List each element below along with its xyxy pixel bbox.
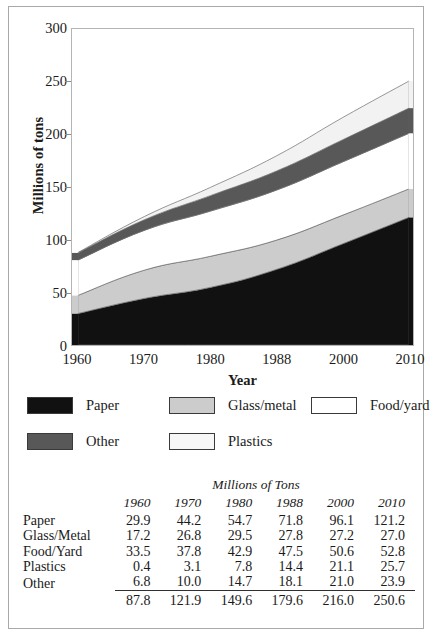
table-cell: 29.9 (115, 513, 160, 528)
table-row-label: Plastics (23, 559, 115, 574)
y-axis-title: Millions of tons (30, 86, 47, 246)
table-row-label: Glass/Metal (23, 528, 115, 543)
table-cell: 18.1 (262, 574, 313, 591)
table-cell: 47.5 (262, 544, 313, 559)
table-total-cell: 149.6 (211, 591, 262, 609)
table-row-label: Other (23, 574, 115, 591)
table-cell: 37.8 (160, 544, 211, 559)
area-edge-fill (409, 81, 413, 108)
table-row-label: Paper (23, 513, 115, 528)
table-total-cell: 179.6 (262, 591, 313, 609)
table-cell: 27.8 (262, 528, 313, 543)
area-edge-fill (409, 217, 413, 345)
table-row-label: Food/Yard (23, 544, 115, 559)
x-tick-label: 1988 (247, 351, 307, 368)
data-table: 196019701980198820002010 Paper29.944.254… (23, 495, 415, 608)
table-column-header: 2000 (313, 495, 364, 513)
y-tick-label: 100 (17, 233, 67, 248)
table-row: Paper29.944.254.771.896.1121.2 (23, 513, 415, 528)
table-cell: 121.2 (364, 513, 415, 528)
table-total-cell: 121.9 (160, 591, 211, 609)
table-column-header: 2010 (364, 495, 415, 513)
table-cell: 23.9 (364, 574, 415, 591)
table-total-cell: 216.0 (313, 591, 364, 609)
table-row: Food/Yard33.537.842.947.550.652.8 (23, 544, 415, 559)
x-tick-label: 1980 (180, 351, 240, 368)
area-edge-fill (409, 133, 413, 189)
table-header-row: 196019701980198820002010 (23, 495, 415, 513)
legend-label: Plastics (228, 433, 272, 450)
legend-swatch-icon (169, 433, 215, 450)
area-edge-fill (409, 108, 413, 133)
figure-frame: Millions of tons 300250200150100500 1960… (8, 6, 424, 629)
table-head: 196019701980198820002010 (23, 495, 415, 513)
area-series-svg (72, 29, 413, 345)
table-cell: 21.1 (313, 559, 364, 574)
x-tick-label: 1960 (47, 351, 107, 368)
table-cell: 17.2 (115, 528, 160, 543)
table-cell: 44.2 (160, 513, 211, 528)
area-edge-fill (72, 253, 78, 260)
table-cell: 26.8 (160, 528, 211, 543)
table-cell: 14.4 (262, 559, 313, 574)
table-cell: 21.0 (313, 574, 364, 591)
table-total-cell: 250.6 (364, 591, 415, 609)
legend-item-glass-metal[interactable]: Glass/metal (169, 397, 296, 414)
x-axis-title: Year (71, 372, 414, 389)
table-column-header: 1980 (211, 495, 262, 513)
y-tick-label: 300 (17, 21, 67, 36)
x-tick-label: 2010 (380, 351, 433, 368)
legend-item-food-yard[interactable]: Food/yard (311, 397, 430, 414)
area-edge-fill (409, 189, 413, 217)
table-total-label (23, 591, 115, 609)
y-tick-label: 200 (17, 127, 67, 142)
legend-swatch-icon (169, 397, 215, 414)
x-tick-label: 2000 (313, 351, 373, 368)
table-total-row: 87.8121.9149.6179.6216.0250.6 (23, 591, 415, 609)
table-cell: 29.5 (211, 528, 262, 543)
table-cell: 14.7 (211, 574, 262, 591)
table-cell: 3.1 (160, 559, 211, 574)
table-cell: 96.1 (313, 513, 364, 528)
table-row: Other6.810.014.718.121.023.9 (23, 574, 415, 591)
legend-item-paper[interactable]: Paper (27, 397, 119, 414)
table-cell: 10.0 (160, 574, 211, 591)
legend-item-other[interactable]: Other (27, 433, 119, 450)
table-corner-cell (23, 495, 115, 513)
legend-item-plastics[interactable]: Plastics (169, 433, 272, 450)
table-cell: 27.2 (313, 528, 364, 543)
legend-label: Glass/metal (228, 397, 296, 414)
chart-legend: PaperGlass/metalFood/yardOtherPlastics (9, 397, 423, 465)
y-tick-label: 250 (17, 74, 67, 89)
area-edge-fill (72, 314, 78, 345)
table-row: Plastics0.43.17.814.421.125.7 (23, 559, 415, 574)
plot-area (71, 28, 414, 346)
table-cell: 71.8 (262, 513, 313, 528)
table-column-header: 1960 (115, 495, 160, 513)
table-cell: 7.8 (211, 559, 262, 574)
table-row: Glass/Metal17.226.829.527.827.227.0 (23, 528, 415, 543)
stacked-area-chart: Millions of tons 300250200150100500 1960… (9, 7, 423, 389)
y-tick-label: 150 (17, 180, 67, 195)
x-tick-label: 1970 (114, 351, 174, 368)
legend-swatch-icon (27, 397, 73, 414)
table-cell: 52.8 (364, 544, 415, 559)
table-cell: 50.6 (313, 544, 364, 559)
area-edge-fill (72, 260, 78, 295)
table-cell: 0.4 (115, 559, 160, 574)
legend-label: Paper (86, 397, 119, 414)
table-title: Millions of Tons (9, 477, 423, 493)
table-cell: 42.9 (211, 544, 262, 559)
table-total-cell: 87.8 (115, 591, 160, 609)
table-cell: 33.5 (115, 544, 160, 559)
legend-swatch-icon (27, 433, 73, 450)
area-edge-fill (72, 295, 78, 313)
y-tick-label: 50 (17, 286, 67, 301)
legend-swatch-icon (311, 397, 357, 414)
table-body: Paper29.944.254.771.896.1121.2Glass/Meta… (23, 513, 415, 608)
table-cell: 54.7 (211, 513, 262, 528)
table-column-header: 1970 (160, 495, 211, 513)
table-cell: 6.8 (115, 574, 160, 591)
table-cell: 27.0 (364, 528, 415, 543)
table-column-header: 1988 (262, 495, 313, 513)
